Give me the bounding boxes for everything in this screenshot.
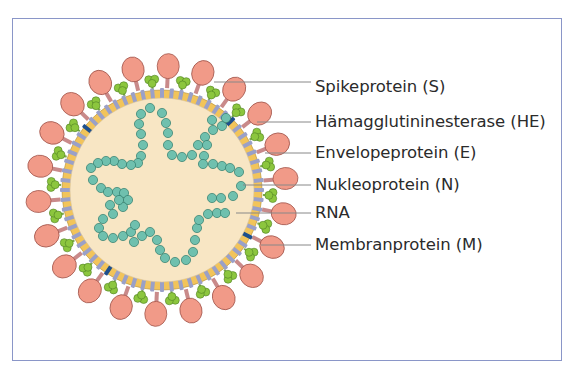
nucleoprotein-bead [129, 237, 138, 246]
nucleoprotein-bead [88, 175, 97, 184]
nucleoprotein-bead [167, 150, 176, 159]
nucleoprotein-bead [163, 128, 172, 137]
nucleoprotein-bead [136, 129, 145, 138]
nucleoprotein-bead [86, 163, 95, 172]
nucleoprotein-bead [108, 209, 117, 218]
nucleoprotein-bead [160, 253, 169, 262]
nucleoprotein-bead [181, 255, 190, 264]
label-spikeprotein: Spikeprotein (S) [315, 77, 445, 97]
he-protein [57, 151, 65, 159]
nucleoprotein-bead [136, 109, 145, 118]
spike-protein-head [269, 201, 298, 227]
spike-protein-head [36, 117, 68, 148]
he-protein [148, 79, 156, 87]
nucleoprotein-bead [105, 200, 114, 209]
nucleoprotein-bead [138, 140, 147, 149]
nucleoprotein-bead [163, 140, 172, 149]
spike-protein-head [74, 274, 106, 307]
he-protein [259, 221, 267, 229]
spike-protein-head [25, 189, 52, 213]
label-rna: RNA [315, 203, 350, 223]
he-protein [232, 109, 240, 117]
nucleoprotein-bead [188, 247, 197, 256]
spike-protein-head [31, 221, 62, 251]
nucleoprotein-bead [207, 115, 216, 124]
nucleoprotein-bead [202, 140, 211, 149]
spike-protein-head [26, 153, 55, 179]
spike-protein-head [157, 53, 180, 79]
he-protein [245, 248, 253, 256]
he-protein [251, 133, 259, 141]
spike-protein-head [188, 57, 217, 88]
nucleoprotein-bead [208, 159, 217, 168]
nucleoprotein-bead [234, 167, 243, 176]
nucleoprotein-bead [194, 215, 203, 224]
spike-protein-head [84, 66, 116, 99]
he-protein [179, 81, 187, 89]
nucleoprotein-bead [170, 257, 179, 266]
nucleoprotein-bead [177, 152, 186, 161]
label-envelopeprotein: Envelopeprotein (E) [315, 143, 476, 163]
label-haemagglutininesterase: Hämagglutininesterase (HE) [315, 112, 546, 132]
he-protein [84, 263, 92, 271]
nucleoprotein-bead [103, 187, 112, 196]
he-protein [137, 291, 145, 299]
nucleoprotein-bead [187, 150, 196, 159]
nucleoprotein-bead [152, 235, 161, 244]
nucleoprotein-bead [208, 125, 217, 134]
label-membranprotein: Membranprotein (M) [315, 235, 483, 255]
spike-protein-head [262, 129, 293, 159]
spike-protein-head [208, 281, 240, 314]
nucleoprotein-bead [228, 191, 237, 200]
he-protein [71, 124, 79, 132]
nucleoprotein-bead [157, 108, 166, 117]
spike-protein-head [144, 301, 167, 327]
nucleoprotein-bead [134, 119, 143, 128]
he-protein [265, 191, 273, 199]
nucleoprotein-bead [98, 214, 107, 223]
spike-protein-head [256, 232, 288, 263]
nucleoprotein-bead [225, 163, 234, 172]
nucleoprotein-bead [216, 193, 225, 202]
nucleoprotein-bead [203, 209, 212, 218]
nucleoprotein-bead [190, 235, 199, 244]
coronavirus-diagram [0, 0, 581, 374]
he-protein [224, 270, 232, 278]
he-protein [118, 87, 126, 95]
nucleoprotein-bead [98, 231, 107, 240]
nucleoprotein-bead [108, 233, 117, 242]
nucleoprotein-bead [155, 245, 164, 254]
nucleoprotein-bead [207, 193, 216, 202]
spike-protein-head [119, 55, 146, 84]
nucleoprotein-bead [130, 220, 139, 229]
he-protein [207, 91, 215, 99]
he-protein [109, 281, 117, 289]
he-protein [54, 211, 62, 219]
spike-protein-head [177, 296, 204, 325]
nucleoprotein-bead [220, 208, 229, 217]
nucleoprotein-bead [126, 160, 135, 169]
spike-protein-head [107, 292, 136, 323]
nucleoprotein-bead [236, 181, 245, 190]
he-protein [92, 102, 100, 110]
label-nukleoprotein: Nukleoprotein (N) [315, 175, 460, 195]
he-protein [262, 161, 270, 169]
he-protein [65, 239, 73, 247]
he-protein [51, 181, 59, 189]
nucleoprotein-bead [221, 113, 230, 122]
he-protein [198, 285, 206, 293]
spike-protein-head [218, 73, 250, 106]
nucleoprotein-bead [161, 118, 170, 127]
he-protein [168, 293, 176, 301]
nucleoprotein-bead [145, 227, 154, 236]
nucleoprotein-bead [145, 103, 154, 112]
spike-protein-head [272, 166, 299, 190]
nucleoprotein-bead [198, 159, 207, 168]
nucleoprotein-bead [114, 195, 123, 204]
nucleoprotein-bead [193, 140, 202, 149]
